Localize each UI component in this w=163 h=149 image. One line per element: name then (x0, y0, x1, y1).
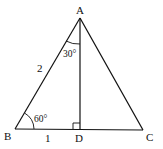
segment-ab (15, 18, 80, 129)
angle-arc-a (66, 41, 80, 44)
side-label-bd: 1 (45, 132, 51, 144)
angle-arc-b (25, 113, 35, 129)
vertex-label-d: D (75, 132, 83, 144)
segment-bc (15, 129, 143, 130)
angle-label-b: 60° (34, 114, 48, 124)
vertex-label-a: A (76, 4, 84, 16)
triangle-diagram: A B C D 2 1 60° 30° (0, 0, 163, 149)
segment-ac (80, 18, 143, 130)
right-angle-mark (73, 123, 80, 129)
angle-label-a: 30° (63, 49, 77, 59)
side-label-ab: 2 (37, 62, 43, 74)
vertex-label-c: C (146, 131, 153, 143)
vertex-label-b: B (4, 130, 11, 142)
